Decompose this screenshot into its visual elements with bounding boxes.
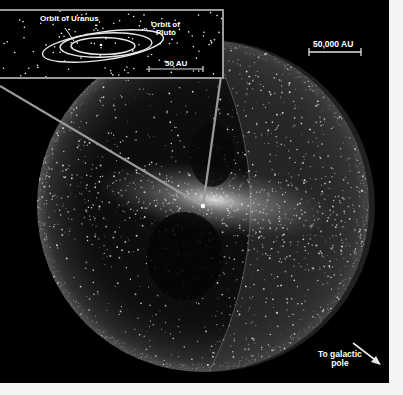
sun-dot (100, 44, 103, 47)
scale-bar-50000-au (309, 48, 361, 56)
uranus-orbit-label: Orbit of Uranus (40, 15, 99, 23)
oort-cloud-figure: 50,000 AU To galactic pole Orbit of Uran… (0, 0, 389, 383)
pluto-orbit-label-line2: Pluto (151, 29, 180, 37)
inner-cloud-upper (190, 123, 234, 187)
galactic-pole-label-line2: pole (318, 359, 362, 368)
galactic-pole-label: To galactic pole (318, 350, 362, 368)
pluto-orbit-label: Orbit of Pluto (151, 21, 180, 38)
planetary-orbits-inset: Orbit of Uranus Orbit of Pluto 50 AU (0, 9, 224, 79)
scale-label-50-au: 50 AU (165, 60, 187, 68)
uranus-orbit (71, 38, 135, 55)
sun-marker (201, 204, 205, 208)
pluto-orbit (41, 24, 166, 69)
inner-cloud-lower (147, 212, 223, 300)
scale-label-50000-au: 50,000 AU (313, 40, 353, 49)
orbits-diagram (0, 11, 222, 77)
